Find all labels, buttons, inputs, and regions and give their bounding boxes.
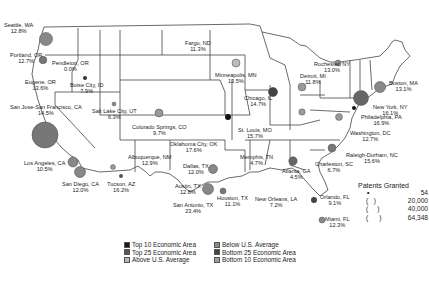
circle-icon: ( ): [366, 205, 380, 213]
city-label-st-louis: St. Louis, MO15.7%: [238, 127, 272, 140]
size-legend-row: ∘54: [358, 189, 428, 197]
category-legend-right: Below U.S. Average Bottom 25 Economic Ar…: [214, 241, 296, 264]
circle-icon: ( ): [366, 197, 376, 205]
city-label-tucson: Tucson, AZ16.2%: [107, 181, 135, 194]
city-label-miami: Miami, FL12.3%: [325, 216, 350, 229]
swatch-icon: [214, 257, 220, 263]
size-legend-row: ( )40,000: [358, 205, 428, 213]
city-label-rochester: Rochester, NY13.0%: [314, 61, 350, 74]
state-borders: [32, 24, 410, 196]
city-label-colorado-springs: Colorado Springs, CO9.7%: [132, 124, 187, 137]
circle-icon: ( ): [366, 214, 381, 222]
city-label-fargo: Fargo, ND11.3%: [185, 40, 211, 53]
swatch-icon: [214, 242, 220, 248]
city-label-portland: Portland, OR12.7%: [10, 52, 42, 65]
city-label-boise: Boise City, ID7.9%: [70, 82, 103, 95]
city-label-san-jose: San Jose-San Francisco, CA14.5%: [10, 104, 82, 117]
city-label-new-york: New York, NY16.1%: [373, 104, 408, 117]
circle-icon: ∘: [366, 189, 370, 197]
city-label-houston: Houston, TX11.1%: [217, 195, 248, 208]
city-label-minneapolis: Minneapolis, MN13.5%: [215, 72, 257, 85]
city-label-detroit: Detroit, MI11.8%: [300, 73, 326, 86]
city-label-atlanta: Atlanta, GA4.5%: [282, 168, 311, 181]
city-label-oklahoma-city: Oklahoma City, OK17.6%: [170, 141, 217, 154]
city-label-austin: Austin, TX12.8%: [175, 183, 201, 196]
legend-item: Below U.S. Average: [214, 241, 296, 249]
swatch-icon: [124, 242, 130, 248]
size-legend-title: Patents Granted: [358, 182, 428, 189]
patent-map: Seattle, WA12.8% Portland, OR12.7% Pendl…: [0, 0, 429, 283]
city-label-seattle: Seattle, WA12.8%: [4, 22, 33, 35]
city-label-memphis: Memphis, TN4.7%: [240, 154, 273, 167]
city-label-orlando: Orlando, FL9.1%: [320, 194, 350, 207]
legend-item: Above U.S. Average: [124, 256, 196, 264]
city-label-eugene: Eugene, OR13.6%: [25, 79, 56, 92]
legend-item: Bottom 10 Economic Area: [214, 256, 296, 264]
city-label-pendleton: Pendleton, OR0.0%: [52, 60, 89, 73]
swatch-icon: [214, 249, 220, 255]
city-label-boston: Boston, MA13.1%: [389, 80, 418, 93]
city-label-washington: Washington, DC12.7%: [350, 130, 391, 143]
city-label-san-diego: San Diego, CA12.0%: [62, 181, 99, 194]
city-label-chicago: Chicago, IL14.7%: [244, 95, 272, 108]
size-legend: Patents Granted ∘54 ( )20,000 ( )40,000 …: [358, 182, 428, 222]
city-label-san-antonio: San Antonio, TX23.4%: [173, 202, 213, 215]
legend-item: Bottom 25 Economic Area: [214, 249, 296, 257]
category-legend-left: Top 10 Economic Area Top 25 Economic Are…: [124, 241, 196, 264]
swatch-icon: [124, 257, 130, 263]
city-label-dallas: Dallas, TX12.0%: [183, 163, 209, 176]
swatch-icon: [124, 249, 130, 255]
legend-item: Top 25 Economic Area: [124, 249, 196, 257]
size-legend-row: ( )20,000: [358, 197, 428, 205]
legend-item: Top 10 Economic Area: [124, 241, 196, 249]
city-label-new-orleans: New Orleans, LA7.2%: [255, 196, 297, 209]
city-label-salt-lake: Salt Lake City, UT6.3%: [92, 108, 137, 121]
city-label-los-angeles: Los Angeles, CA10.5%: [24, 160, 65, 173]
size-legend-row: ( )64,348: [358, 214, 428, 222]
city-label-raleigh: Raleigh-Durham, NC15.6%: [346, 152, 398, 165]
city-label-albuquerque: Albuquerque, NM12.9%: [128, 154, 172, 167]
